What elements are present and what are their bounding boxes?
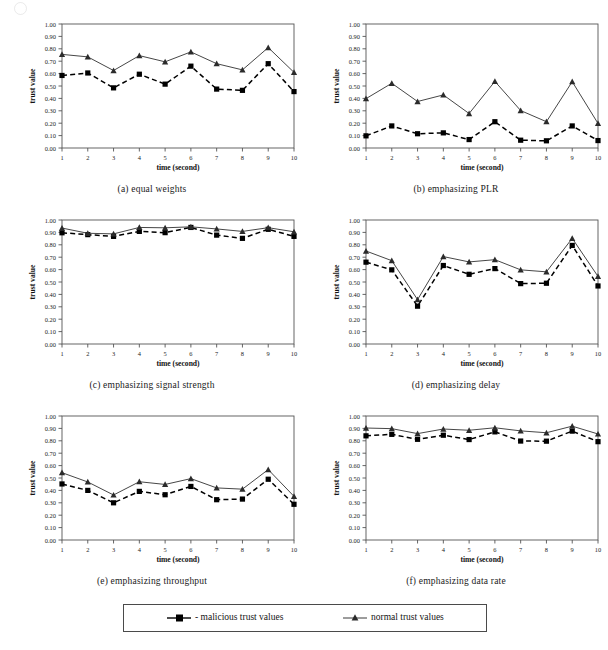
y-axis-title: trust value xyxy=(28,460,37,495)
data-point-marker xyxy=(415,437,420,442)
y-tick-label: 0.40 xyxy=(349,487,360,494)
y-tick-label: 0.10 xyxy=(45,132,56,139)
data-point-marker xyxy=(214,497,219,502)
y-tick-label: 1.00 xyxy=(45,217,56,224)
data-point-marker xyxy=(85,488,90,493)
y-tick-label: 0.60 xyxy=(45,266,56,273)
x-tick-label: 5 xyxy=(468,546,471,553)
y-tick-label: 0.70 xyxy=(349,58,360,65)
data-point-marker xyxy=(266,477,271,482)
x-tick-label: 6 xyxy=(493,546,496,553)
chart-caption-b: (b) emphasizing PLR xyxy=(304,184,608,194)
x-tick-label: 3 xyxy=(112,154,115,161)
data-point-marker xyxy=(291,502,296,507)
data-point-marker xyxy=(492,266,497,271)
x-tick-label: 4 xyxy=(442,350,446,357)
data-point-marker xyxy=(363,133,368,138)
data-point-marker xyxy=(163,82,168,87)
y-tick-label: 0.50 xyxy=(45,83,56,90)
y-axis-title: trust value xyxy=(332,68,341,103)
x-tick-label: 9 xyxy=(267,154,270,161)
chart-panel-c: 0.000.100.200.300.400.500.600.700.800.90… xyxy=(0,204,304,400)
y-tick-label: 0.90 xyxy=(45,425,56,432)
x-tick-label: 10 xyxy=(291,154,297,161)
x-tick-label: 9 xyxy=(267,546,270,553)
x-tick-label: 8 xyxy=(241,546,244,553)
data-point-marker xyxy=(595,138,600,143)
x-tick-label: 7 xyxy=(215,154,219,161)
y-tick-label: 0.70 xyxy=(45,450,56,457)
x-tick-label: 7 xyxy=(215,546,219,553)
data-point-marker xyxy=(266,61,271,66)
data-point-marker xyxy=(188,484,193,489)
y-tick-label: 0.80 xyxy=(349,437,360,444)
y-tick-label: 0.30 xyxy=(349,499,360,506)
data-point-marker xyxy=(544,138,549,143)
x-tick-label: 2 xyxy=(390,154,393,161)
data-point-marker xyxy=(492,119,497,124)
x-tick-label: 2 xyxy=(86,154,89,161)
x-tick-label: 7 xyxy=(519,154,523,161)
y-tick-label: 0.90 xyxy=(45,33,56,40)
chart-caption-f: (f) emphasizing data rate xyxy=(304,576,608,586)
x-tick-label: 5 xyxy=(164,546,167,553)
data-point-marker xyxy=(415,304,420,309)
x-tick-label: 10 xyxy=(595,350,601,357)
x-axis-title: time (second) xyxy=(156,359,200,368)
x-tick-label: 2 xyxy=(390,350,393,357)
x-tick-label: 1 xyxy=(364,350,367,357)
y-tick-label: 0.60 xyxy=(349,462,360,469)
x-tick-label: 6 xyxy=(189,154,192,161)
x-tick-label: 2 xyxy=(86,350,89,357)
data-point-marker xyxy=(389,432,394,437)
y-axis-title: trust value xyxy=(28,264,37,299)
y-tick-label: 0.40 xyxy=(349,291,360,298)
x-tick-label: 10 xyxy=(291,350,297,357)
y-tick-label: 1.00 xyxy=(45,21,56,28)
x-tick-label: 5 xyxy=(164,350,167,357)
chart-caption-d: (d) emphasizing delay xyxy=(304,380,608,390)
data-point-marker xyxy=(137,489,142,494)
x-axis-title: time (second) xyxy=(460,359,504,368)
y-tick-label: 0.70 xyxy=(45,254,56,261)
y-tick-label: 0.00 xyxy=(349,145,360,152)
data-point-marker xyxy=(544,281,549,286)
data-point-marker xyxy=(363,260,368,265)
x-tick-label: 4 xyxy=(138,350,142,357)
y-tick-label: 0.40 xyxy=(349,95,360,102)
y-axis-title: trust value xyxy=(332,264,341,299)
y-tick-label: 0.70 xyxy=(349,254,360,261)
y-tick-label: 0.00 xyxy=(349,341,360,348)
x-tick-label: 10 xyxy=(291,546,297,553)
y-axis-title: trust value xyxy=(28,68,37,103)
legend-label-normal: normal trust values xyxy=(371,613,444,623)
x-tick-label: 6 xyxy=(493,154,496,161)
y-tick-label: 0.80 xyxy=(349,45,360,52)
y-tick-label: 0.10 xyxy=(45,328,56,335)
data-point-marker xyxy=(163,492,168,497)
x-tick-label: 8 xyxy=(241,154,244,161)
x-tick-label: 10 xyxy=(595,546,601,553)
x-tick-label: 9 xyxy=(571,546,574,553)
figure-page: 0.000.100.200.300.400.500.600.700.800.90… xyxy=(0,0,608,650)
plot-frame xyxy=(62,416,294,540)
data-point-marker xyxy=(467,272,472,277)
y-tick-label: 0.00 xyxy=(45,145,56,152)
y-tick-label: 0.30 xyxy=(45,107,56,114)
y-tick-label: 0.20 xyxy=(45,512,56,519)
chart-panel-a: 0.000.100.200.300.400.500.600.700.800.90… xyxy=(0,8,304,204)
chart-panel-f: 0.000.100.200.300.400.500.600.700.800.90… xyxy=(304,400,608,596)
data-point-marker xyxy=(415,131,420,136)
data-point-marker xyxy=(188,64,193,69)
y-tick-label: 0.30 xyxy=(349,303,360,310)
y-tick-label: 0.80 xyxy=(45,437,56,444)
data-point-marker xyxy=(59,481,64,486)
y-tick-label: 0.30 xyxy=(349,107,360,114)
chart-svg-f: 0.000.100.200.300.400.500.600.700.800.90… xyxy=(304,400,608,580)
data-point-marker xyxy=(291,234,296,239)
y-tick-label: 0.60 xyxy=(349,70,360,77)
x-tick-label: 3 xyxy=(416,154,419,161)
data-point-marker xyxy=(595,283,600,288)
x-tick-label: 4 xyxy=(442,154,446,161)
y-tick-label: 0.60 xyxy=(45,70,56,77)
